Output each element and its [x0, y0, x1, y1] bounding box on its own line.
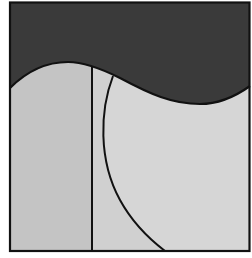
lower-left-region — [10, 62, 92, 251]
diagram-svg — [0, 0, 252, 258]
diagram-canvas — [0, 0, 252, 258]
